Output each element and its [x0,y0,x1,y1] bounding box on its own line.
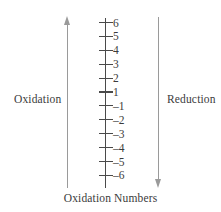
scale-tick-mark [99,119,113,120]
scale-tick-mark [99,105,113,106]
scale-tick-mark [99,147,113,148]
number-scale-ticks: 654321–1–2–3–4–5–6 [0,0,221,212]
scale-tick-mark [99,64,113,65]
scale-tick-mark [99,175,113,176]
scale-tick-mark [99,133,113,134]
scale-tick-label: –6 [113,167,147,183]
oxidation-number-scale-figure: Oxidation Reduction 654321–1–2–3–4–5–6 O… [0,0,221,212]
scale-tick-mark [99,22,113,23]
scale-tick-mark [99,50,113,51]
scale-tick-mark [99,161,113,162]
scale-tick-mark [99,36,113,37]
scale-tick-mark [99,91,113,92]
scale-tick-mark [99,78,113,79]
figure-caption: Oxidation Numbers [0,192,221,204]
